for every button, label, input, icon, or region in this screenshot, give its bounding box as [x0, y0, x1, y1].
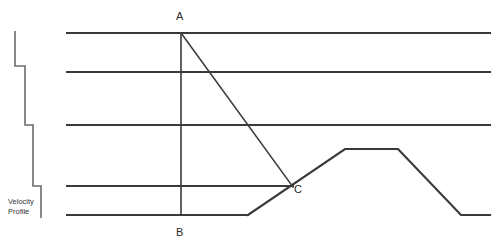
velocity-profile-label: Velocity Profile — [8, 197, 34, 217]
point-label-c: C — [294, 184, 302, 195]
velocity-profile-label-line2: Profile — [8, 207, 34, 217]
point-label-b: B — [176, 227, 183, 238]
velocity-profile-bracket — [15, 31, 41, 218]
reference-lines-group — [67, 33, 490, 215]
point-label-a: A — [176, 11, 183, 22]
velocity-profile-bracket-group — [15, 31, 41, 218]
velocity-profile-curve — [248, 149, 490, 215]
velocity-profile-curve-group — [248, 149, 490, 215]
diagram-canvas — [0, 0, 501, 247]
velocity-profile-diagram: A B C Velocity Profile — [0, 0, 501, 247]
segment-ac-line — [181, 33, 293, 187]
velocity-profile-label-line1: Velocity — [8, 197, 34, 207]
